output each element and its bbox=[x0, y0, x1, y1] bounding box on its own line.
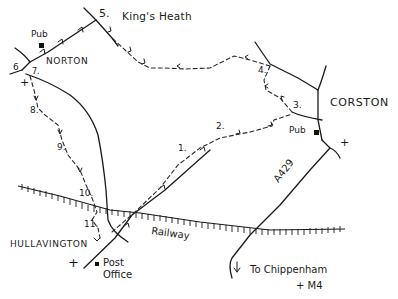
place-label-hullavington: HULLAVINGTON bbox=[10, 240, 88, 249]
waypoint-5: 5. bbox=[99, 8, 110, 19]
church-icon-hullavington: + bbox=[68, 256, 79, 269]
post-office-icon bbox=[95, 262, 99, 266]
route-segment-4-to-5 bbox=[112, 38, 270, 69]
waypoint-4: 4. bbox=[258, 66, 267, 75]
waypoint-8: 8. bbox=[30, 106, 39, 115]
waypoint-11: 11. bbox=[84, 220, 98, 229]
pub-label-norton: Pub bbox=[31, 30, 48, 39]
road-corston-east bbox=[330, 148, 340, 158]
post-office-label-line1: Post bbox=[103, 258, 124, 268]
place-label-corston: CORSTON bbox=[330, 97, 389, 108]
route-segment-south-to-corston bbox=[112, 114, 292, 232]
waypoint-2: 2. bbox=[216, 122, 225, 131]
walking-route-map: King's Heath NORTON CORSTON HULLAVINGTON… bbox=[0, 0, 398, 299]
post-office-label-line2: Office bbox=[103, 270, 132, 280]
pub-icon-corston bbox=[314, 130, 319, 135]
waypoint-7: 7. bbox=[32, 68, 40, 76]
place-label-kings-heath: King's Heath bbox=[122, 11, 192, 22]
waypoint-3: 3. bbox=[293, 101, 302, 110]
route-segment-7-to-11 bbox=[30, 76, 100, 238]
railway-line bbox=[18, 184, 345, 235]
chippenham-arrow-icon bbox=[234, 262, 240, 272]
road-5-east bbox=[96, 20, 118, 46]
pub-label-corston: Pub bbox=[289, 126, 306, 135]
road-norton-north bbox=[15, 48, 30, 62]
chippenham-label-line2: + M4 bbox=[296, 281, 323, 291]
place-label-norton: NORTON bbox=[46, 57, 88, 66]
road-corston-northeast bbox=[318, 66, 326, 90]
pub-icon-norton bbox=[39, 43, 44, 48]
chippenham-label-line1: To Chippenham bbox=[250, 265, 327, 275]
waypoint-6: 6 bbox=[13, 63, 19, 72]
waypoint-10: 10. bbox=[79, 189, 93, 198]
church-icon-norton: + bbox=[20, 77, 29, 88]
walking-route bbox=[30, 38, 292, 238]
road-norton-hullavington bbox=[26, 74, 128, 242]
road-a429 bbox=[230, 140, 330, 278]
waypoint-1: 1. bbox=[178, 144, 187, 153]
waypoint-9: 9. bbox=[57, 143, 66, 152]
church-icon-corston: + bbox=[340, 137, 349, 148]
